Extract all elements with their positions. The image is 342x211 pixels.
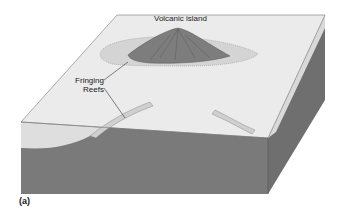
block-diagram-svg — [0, 0, 342, 211]
fringing-reefs-label-line2: Reefs — [83, 85, 104, 94]
diagram-canvas: Volcanic island Fringing Reefs (a) — [0, 0, 342, 211]
fringing-reefs-label: Fringing Reefs — [64, 76, 104, 94]
volcanic-island-label: Volcanic island — [154, 14, 207, 23]
panel-label: (a) — [19, 197, 30, 206]
fringing-reefs-label-line1: Fringing — [75, 76, 104, 85]
